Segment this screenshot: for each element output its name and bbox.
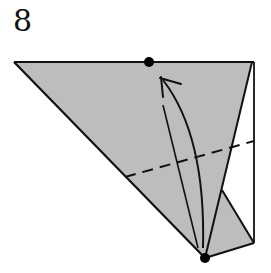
origami-diagram (0, 0, 271, 273)
reference-dot-bottom (200, 253, 210, 263)
reference-dot-top (144, 57, 154, 67)
